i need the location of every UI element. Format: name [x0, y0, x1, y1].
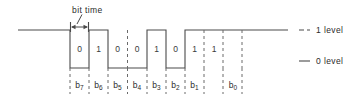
bit-label-b3-sub: 3: [157, 84, 161, 91]
bit-value-b6: 1: [92, 45, 106, 54]
bit-label-b0-sub: 0: [234, 84, 238, 91]
bit-label-b6: b6: [89, 81, 109, 90]
bit-value-b5: 0: [111, 45, 125, 54]
bit-label-b2-sub: 2: [176, 84, 180, 91]
legend-marks: [299, 30, 310, 61]
bit-time-leader-line: [77, 15, 82, 25]
bit-label-b1: b1: [185, 81, 205, 90]
bit-time-arrowhead-right: [84, 25, 89, 29]
bit-label-b3: b3: [147, 81, 167, 90]
bit-time-label: bit time: [72, 6, 103, 15]
bit-value-b1: 1: [188, 45, 202, 54]
bit-value-b3: 1: [150, 45, 164, 54]
bit-label-b5: b5: [108, 81, 128, 90]
serial-waveform-figure: bit time 0 1 0 0 1 0 1 1 b7 b6 b5 b4 b3 …: [0, 0, 362, 100]
bit-label-b2: b2: [166, 81, 186, 90]
bit-label-b0: b0: [223, 81, 243, 90]
bit-label-b6-sub: 6: [99, 84, 103, 91]
bit-label-b4: b4: [127, 81, 147, 90]
bit-value-b0: 1: [207, 45, 221, 54]
bit-label-b5-sub: 5: [118, 84, 122, 91]
bit-value-b4: 0: [130, 45, 144, 54]
legend-label-zero-level: 0 level: [316, 57, 343, 66]
bit-time-arrowhead-left: [71, 25, 76, 29]
bit-label-b1-sub: 1: [195, 84, 199, 91]
bit-label-b4-sub: 4: [138, 84, 142, 91]
bit-value-b2: 0: [169, 45, 183, 54]
bit-label-b0-base: b: [229, 80, 234, 90]
legend-label-one-level: 1 level: [316, 26, 343, 35]
bit-time-measure: [71, 15, 89, 33]
bit-label-b4-base: b: [133, 80, 138, 90]
bit-label-b7-sub: 7: [80, 84, 84, 91]
bit-label-b7: b7: [70, 81, 90, 90]
bit-value-b7: 0: [73, 45, 87, 54]
